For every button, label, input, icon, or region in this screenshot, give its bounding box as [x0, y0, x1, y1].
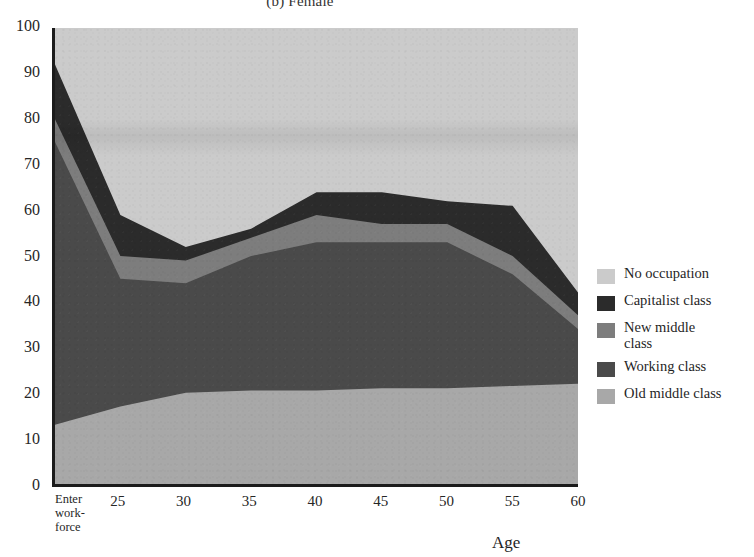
y-axis-tick-90: 90: [0, 63, 40, 81]
stacked-area-chart: [55, 28, 578, 484]
legend-item[interactable]: No occupation: [597, 266, 754, 286]
legend-swatch-icon: [597, 362, 615, 377]
legend-item-label: Capitalist class: [624, 293, 711, 309]
page-title: (b) Female: [0, 0, 600, 10]
y-axis-tick-50: 50: [0, 247, 40, 265]
x-axis-tick-55: 55: [492, 494, 532, 510]
legend-item[interactable]: Capitalist class: [597, 293, 754, 313]
x-axis-tick-30: 30: [164, 494, 204, 510]
legend-swatch-icon: [597, 296, 615, 311]
x-axis-tick-40: 40: [295, 494, 335, 510]
y-axis-tick-70: 70: [0, 155, 40, 173]
legend-item-label: New middle class: [624, 320, 695, 352]
legend-item-label: No occupation: [624, 266, 709, 282]
area-bands: [55, 28, 578, 484]
legend: No occupationCapitalist classNew middle …: [597, 266, 754, 413]
y-axis-tick-80: 80: [0, 109, 40, 127]
x-axis-tick-45: 45: [361, 494, 401, 510]
x-axis-tick-50: 50: [427, 494, 467, 510]
y-axis: 1009080706050403020100: [0, 0, 44, 557]
y-axis-tick-10: 10: [0, 430, 40, 448]
legend-swatch-icon: [597, 389, 615, 404]
legend-swatch-icon: [597, 269, 615, 284]
figure-panel-female: (b) Female 1009080706050403020100 Age En…: [0, 0, 754, 557]
y-axis-tick-30: 30: [0, 338, 40, 356]
x-axis: Age Enter work- force2530354045505560: [0, 489, 754, 557]
legend-swatch-icon: [597, 323, 615, 338]
y-axis-tick-40: 40: [0, 292, 40, 310]
y-axis-tick-100: 100: [0, 17, 40, 35]
x-axis-label: Age: [492, 533, 520, 553]
plot-area: [52, 28, 578, 487]
legend-item[interactable]: Working class: [597, 359, 754, 379]
y-axis-tick-60: 60: [0, 201, 40, 219]
x-axis-tick-60: 60: [558, 494, 598, 510]
legend-item-label: Working class: [624, 359, 706, 375]
x-axis-tick-25: 25: [98, 494, 138, 510]
legend-item[interactable]: Old middle class: [597, 386, 754, 406]
x-axis-tick-35: 35: [229, 494, 269, 510]
legend-item-label: Old middle class: [624, 386, 721, 402]
legend-item[interactable]: New middle class: [597, 320, 754, 352]
y-axis-tick-20: 20: [0, 384, 40, 402]
